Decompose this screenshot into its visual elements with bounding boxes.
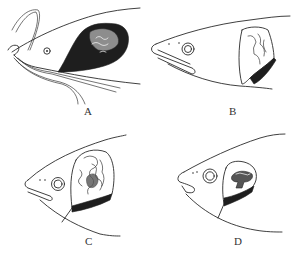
panel-label-b: B bbox=[229, 105, 236, 117]
panel-a-snout bbox=[8, 45, 19, 55]
panel-c-gill-mass bbox=[87, 174, 99, 188]
panel-c-fish bbox=[25, 135, 126, 236]
panel-d-fish bbox=[178, 134, 285, 232]
panel-d-gill-filaments bbox=[224, 186, 254, 206]
panel-c-gill-filaments bbox=[72, 194, 112, 212]
panel-d-nostril bbox=[196, 171, 198, 173]
panel-d-eye-outer bbox=[203, 169, 217, 183]
panel-a-fish bbox=[8, 8, 140, 104]
panel-c-nostril bbox=[39, 179, 41, 181]
panel-a-pupil bbox=[46, 50, 48, 52]
panel-d-gill-mass bbox=[231, 171, 252, 188]
panel-d-back-outline bbox=[184, 134, 285, 172]
panel-c-mouth bbox=[25, 180, 52, 201]
panel-b-gill-filaments bbox=[250, 58, 276, 84]
panel-b-jaw bbox=[152, 44, 196, 74]
panel-c-eye-outer bbox=[52, 178, 65, 191]
panel-d-gill-edge bbox=[218, 204, 224, 218]
panel-b-fish bbox=[152, 16, 291, 89]
figure-canvas bbox=[0, 0, 291, 256]
panel-d-nostril bbox=[192, 172, 194, 174]
panel-c-eye-inner bbox=[54, 180, 62, 188]
panel-label-c: C bbox=[85, 235, 92, 247]
panel-d-mouth bbox=[178, 172, 195, 193]
panel-c-back-outline bbox=[28, 135, 126, 180]
panel-b-nostril bbox=[178, 42, 180, 44]
panel-b-nostril bbox=[168, 43, 170, 45]
panel-b-eye-outer bbox=[182, 43, 194, 55]
panel-b-back-outline bbox=[156, 16, 290, 44]
panel-b-eye-inner bbox=[185, 46, 192, 53]
panel-label-d: D bbox=[234, 235, 242, 247]
panel-b-gill-detail bbox=[248, 34, 266, 64]
panel-c-nostril bbox=[44, 179, 46, 181]
panel-label-a: A bbox=[84, 105, 92, 117]
panel-d-eye-inner bbox=[206, 172, 214, 180]
panel-a-barbel bbox=[16, 12, 38, 50]
